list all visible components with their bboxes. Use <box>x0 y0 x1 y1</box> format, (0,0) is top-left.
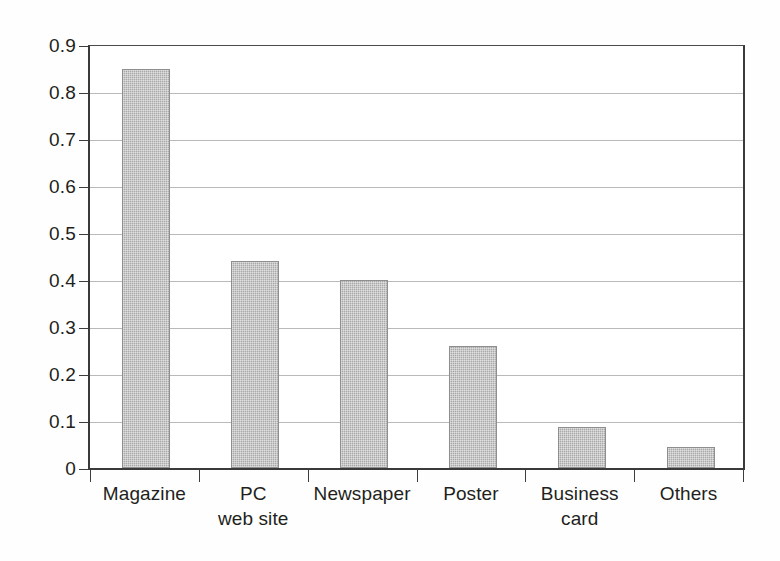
y-axis-tick-label: 0.6 <box>16 176 76 198</box>
x-axis-category-label: Poster <box>417 481 526 506</box>
bar <box>122 69 170 469</box>
bar <box>667 447 715 468</box>
y-axis-label-group: 00.10.20.30.40.50.60.70.80.9 <box>12 0 76 561</box>
x-axis-category-label: Magazine <box>90 481 199 506</box>
y-axis-tick-label: 0.4 <box>16 270 76 292</box>
y-axis-tick-label: 0.5 <box>16 223 76 245</box>
y-axis-tick-label: 0.3 <box>16 317 76 339</box>
bar <box>558 427 606 468</box>
y-axis-tick <box>79 140 88 141</box>
y-axis-tick <box>79 469 88 470</box>
y-axis-tick <box>79 187 88 188</box>
y-axis-tick-label: 0.7 <box>16 129 76 151</box>
y-axis-tick-label: 0.1 <box>16 411 76 433</box>
y-axis-tick-label: 0.2 <box>16 364 76 386</box>
y-axis-tick <box>79 234 88 235</box>
chart-screenshot: 00.10.20.30.40.50.60.70.80.9 MagazinePC … <box>0 0 780 561</box>
x-axis-category-label: Others <box>634 481 743 506</box>
y-axis-tick <box>79 93 88 94</box>
y-axis-tick-label: 0.8 <box>16 82 76 104</box>
y-axis-tick <box>79 328 88 329</box>
y-axis-tick <box>79 281 88 282</box>
x-axis-category-label: Newspaper <box>308 481 417 506</box>
y-axis-tick <box>79 375 88 376</box>
bar <box>231 261 279 468</box>
y-axis-tick-label: 0 <box>16 458 76 480</box>
plot-area <box>88 45 745 470</box>
x-axis-category-label: Business card <box>525 481 634 531</box>
x-axis-tick <box>743 470 744 482</box>
bar <box>449 346 497 468</box>
y-axis-tick <box>79 422 88 423</box>
y-axis-tick-label: 0.9 <box>16 35 76 57</box>
y-axis-tick <box>79 46 88 47</box>
bar-group <box>92 46 741 468</box>
bar <box>340 280 388 468</box>
x-axis-category-label: PC web site <box>199 481 308 531</box>
